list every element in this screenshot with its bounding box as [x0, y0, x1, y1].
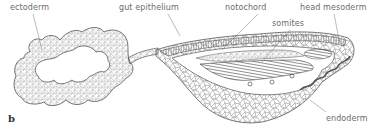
embryo-cross-section-diagram	[0, 0, 375, 136]
label-head-mesoderm: head mesoderm	[300, 3, 367, 12]
panel-label: b	[8, 113, 15, 124]
label-gut-epithelium: gut epithelium	[119, 3, 179, 12]
stalk-tissue	[128, 48, 158, 64]
embryo-body	[156, 32, 354, 123]
ectoderm-tissue	[14, 28, 133, 106]
head-mesoderm-tissue	[304, 49, 332, 59]
label-notochord: notochord	[225, 3, 267, 12]
label-somites: somites	[272, 19, 304, 28]
label-endoderm: endoderm	[326, 114, 368, 123]
label-ectoderm: ectoderm	[10, 3, 49, 12]
